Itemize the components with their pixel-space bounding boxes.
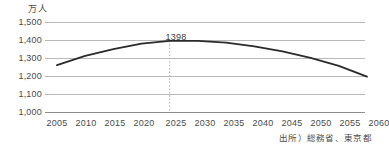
series-plot xyxy=(45,20,365,114)
x-tick-label: 2010 xyxy=(76,118,97,128)
x-tick-label: 2055 xyxy=(340,118,361,128)
y-tick-label: 1,200 xyxy=(0,71,42,81)
x-tick-label: 2030 xyxy=(195,118,216,128)
x-tick-label: 2060 xyxy=(369,118,389,128)
y-tick-label: 1,100 xyxy=(0,89,42,99)
y-axis-unit-label: 万人 xyxy=(28,2,47,15)
y-tick-label: 1,000 xyxy=(0,107,42,117)
x-tick-label: 2040 xyxy=(253,118,274,128)
y-tick-label: 1,500 xyxy=(0,17,42,27)
x-tick-label: 2020 xyxy=(134,118,155,128)
x-tick-label: 2050 xyxy=(311,118,332,128)
x-tick-label: 2015 xyxy=(105,118,126,128)
x-axis-tick-labels: 2005 2010 2015 2020 2025 2030 2035 2040 … xyxy=(0,118,376,130)
x-tick-label: 2005 xyxy=(47,118,68,128)
source-note: 出所）総務省、東京都 xyxy=(279,131,372,143)
y-tick-label: 1,400 xyxy=(0,35,42,45)
x-tick-label: 2035 xyxy=(224,118,245,128)
x-tick-label: 2025 xyxy=(166,118,187,128)
population-line-series xyxy=(57,41,367,77)
peak-value-label: 1398 xyxy=(166,32,187,42)
x-tick-label: 2045 xyxy=(282,118,303,128)
plot-area xyxy=(45,20,365,114)
y-tick-label: 1,300 xyxy=(0,53,42,63)
